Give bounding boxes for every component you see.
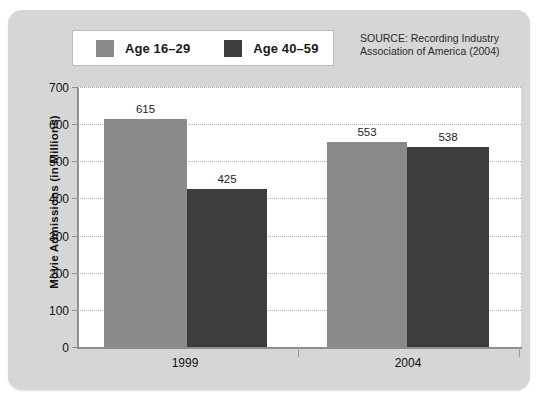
source-note-line-2: Association of America (2004) xyxy=(360,45,499,58)
y-tick-label-100: 100 xyxy=(49,304,69,318)
bar-value-1999-age-16-29: 615 xyxy=(136,103,155,115)
legend-swatch-age-16-29 xyxy=(96,40,114,57)
chart-legend: Age 16–29 Age 40–59 xyxy=(72,30,334,66)
y-tick-label-400: 400 xyxy=(49,192,69,206)
legend-label-age-40-59: Age 40–59 xyxy=(253,41,318,56)
y-tick-mark-300 xyxy=(72,236,78,237)
chart-panel: Age 16–29 Age 40–59 SOURCE: Recording In… xyxy=(8,10,530,390)
bar-value-2004-age-40-59: 538 xyxy=(438,131,457,143)
plot-area: 700 600 500 400 300 200 100 0 xyxy=(78,87,521,347)
y-tick-mark-600 xyxy=(72,124,78,125)
bar-1999-age-40-59: 425 xyxy=(187,189,267,347)
y-axis-line xyxy=(77,87,79,347)
bar-1999-age-16-29: 615 xyxy=(104,119,187,347)
gridline-0: 0 xyxy=(78,347,521,348)
y-tick-mark-500 xyxy=(72,161,78,162)
y-tick-label-700: 700 xyxy=(49,81,69,95)
y-tick-mark-700 xyxy=(72,87,78,88)
x-axis-label-2004: 2004 xyxy=(395,356,422,370)
x-tick-mark-group-divider xyxy=(298,347,299,357)
y-tick-mark-0 xyxy=(72,347,78,348)
y-tick-label-600: 600 xyxy=(49,118,69,132)
y-tick-mark-200 xyxy=(72,273,78,274)
y-tick-label-200: 200 xyxy=(49,267,69,281)
x-tick-mark-right-end xyxy=(519,347,520,357)
bar-value-2004-age-16-29: 553 xyxy=(357,126,376,138)
legend-swatch-age-40-59 xyxy=(224,40,242,57)
y-tick-label-0: 0 xyxy=(62,341,69,355)
legend-entry-age-40-59: Age 40–59 xyxy=(224,31,318,65)
legend-entry-age-16-29: Age 16–29 xyxy=(96,31,190,65)
y-tick-mark-400 xyxy=(72,198,78,199)
x-axis-label-1999: 1999 xyxy=(172,356,199,370)
bar-2004-age-40-59: 538 xyxy=(407,147,489,347)
source-note-line-1: SOURCE: Recording Industry xyxy=(360,32,499,45)
gridline-700: 700 xyxy=(78,87,521,88)
bar-value-1999-age-40-59: 425 xyxy=(217,173,236,185)
bar-2004-age-16-29: 553 xyxy=(327,142,407,347)
y-tick-label-500: 500 xyxy=(49,155,69,169)
source-note: SOURCE: Recording Industry Association o… xyxy=(360,32,499,58)
legend-label-age-16-29: Age 16–29 xyxy=(125,41,190,56)
y-tick-mark-100 xyxy=(72,310,78,311)
y-tick-label-300: 300 xyxy=(49,230,69,244)
